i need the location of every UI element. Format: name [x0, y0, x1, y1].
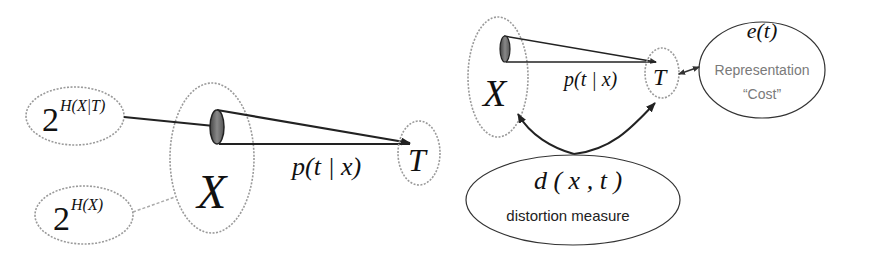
cost-node: e(t) Representation “Cost” — [699, 18, 825, 118]
total-volume-connector — [133, 197, 175, 212]
distortion-node: d ( x , t ) distortion measure — [466, 155, 680, 245]
right-t-label: T — [653, 64, 668, 90]
cost-formula: e(t) — [747, 18, 778, 43]
left-target-set: T — [398, 121, 440, 185]
conditional-volume-connector — [124, 117, 214, 126]
distortion-arrow-to-x — [518, 114, 574, 154]
right-target-set: T — [645, 48, 679, 98]
left-t-label: T — [408, 142, 428, 178]
right-source-set: X — [468, 17, 528, 137]
conditional-volume-ellipse — [26, 87, 124, 145]
left-mapping-label: p(t | x) — [290, 152, 361, 181]
cost-line2: “Cost” — [743, 86, 781, 102]
left-x-label: X — [195, 165, 228, 218]
cost-double-arrow — [679, 67, 699, 74]
total-volume-node: 2 H(X) — [35, 186, 133, 244]
right-mapping-cone — [500, 36, 656, 62]
distortion-arrow-to-t — [574, 103, 655, 154]
cone-upper-edge — [217, 110, 410, 143]
distortion-formula: d ( x , t ) — [534, 166, 622, 195]
right-x-label: X — [481, 72, 508, 114]
cost-line1: Representation — [715, 62, 810, 78]
right-diagram: X p(t | x) T e(t) Representation “Cost” — [466, 17, 825, 245]
conditional-volume-exponent: H(X|T) — [59, 97, 105, 115]
distortion-caption: distortion measure — [506, 207, 629, 224]
conditional-volume-base: 2 — [42, 101, 59, 138]
right-mapping-label: p(t | x) — [562, 68, 618, 91]
conditional-volume-node: 2 H(X|T) — [26, 87, 124, 145]
left-mapping-cone — [210, 110, 410, 144]
total-volume-base: 2 — [53, 200, 70, 237]
cone-base-ellipse — [210, 110, 224, 144]
total-volume-ellipse — [35, 186, 133, 244]
left-diagram: 2 H(X|T) 2 H(X) X p(t | x) T — [26, 83, 440, 244]
total-volume-exponent: H(X) — [70, 196, 103, 214]
right-cone-base-ellipse — [500, 36, 510, 62]
left-source-set: X — [170, 83, 254, 233]
